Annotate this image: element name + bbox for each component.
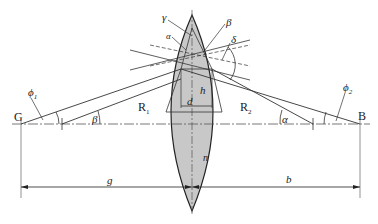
g-label: g [107, 175, 113, 186]
diagram-svg [0, 0, 378, 224]
d-label: d [187, 96, 193, 107]
phi2-label: ϕ2 [343, 82, 352, 96]
r1-label: R1 [138, 101, 150, 116]
beta-axis-label: β [92, 114, 97, 125]
lens-ray-diagram: G B R1 R2 ϕ1 ϕ2 β α γ β α δ d h n g b [0, 0, 378, 224]
delta-label: δ [231, 34, 236, 45]
h-label: h [200, 85, 206, 96]
phi1-label: ϕ1 [28, 87, 37, 101]
n-label: n [203, 153, 208, 163]
alpha-axis-label: α [282, 114, 288, 125]
gamma-label: γ [162, 12, 166, 23]
point-g-label: G [14, 111, 23, 123]
point-b-label: B [358, 110, 366, 122]
b-label: b [286, 174, 292, 185]
beta-top-label: β [226, 17, 231, 28]
alpha-top-label: α [166, 32, 171, 41]
r2-label: R2 [240, 101, 252, 116]
